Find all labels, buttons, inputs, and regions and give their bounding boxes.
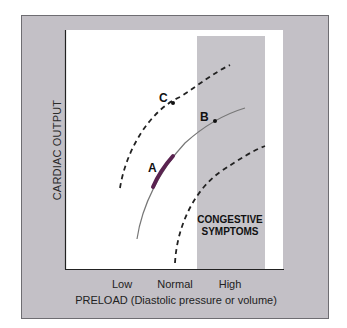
congestive-symptoms-label: CONGESTIVE SYMPTOMS	[197, 214, 263, 238]
congestive-line2: SYMPTOMS	[197, 226, 263, 238]
congestive-line1: CONGESTIVE	[197, 214, 263, 226]
tick-low: Low	[112, 278, 132, 290]
label-c: C	[159, 91, 168, 105]
label-a: A	[148, 161, 157, 175]
point-b-marker	[213, 119, 217, 123]
tick-normal: Normal	[157, 278, 192, 290]
y-axis-label: CARDIAC OUTPUT	[51, 100, 63, 201]
label-b: B	[200, 110, 209, 124]
tick-high: High	[219, 278, 242, 290]
x-axis-label: PRELOAD (Diastolic pressure or volume)	[75, 294, 277, 306]
point-c-marker	[171, 101, 175, 105]
